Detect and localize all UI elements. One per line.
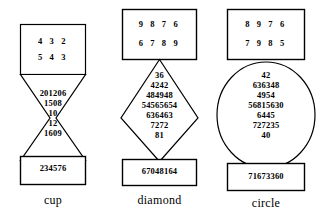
cup-input-row-0: 4 3 2 xyxy=(0,36,106,46)
circle-output-value: 71673360 xyxy=(213,171,319,181)
figure-cup: 4 3 2 5 4 3 201206 1508 10 12 1609 23457… xyxy=(0,0,106,222)
diamond-body-rows: 36 4242 484948 54565654 636463 7272 81 xyxy=(106,70,213,140)
diamond-output-value: 67048164 xyxy=(106,166,213,176)
cup-body-row-3: 12 xyxy=(0,118,106,128)
circle-body-rows: 42 636348 4954 56815630 6445 727235 40 xyxy=(213,70,319,140)
cup-body-row-1: 1508 xyxy=(0,98,106,108)
cup-body-rows: 201206 1508 10 12 1609 xyxy=(0,88,106,138)
circle-body-row-4: 6445 xyxy=(213,110,319,120)
diamond-body-row-5: 7272 xyxy=(106,120,213,130)
diamond-input-box xyxy=(123,10,197,60)
circle-body-row-3: 56815630 xyxy=(213,100,319,110)
cup-caption: cup xyxy=(0,193,106,208)
diamond-body-row-4: 636463 xyxy=(106,110,213,120)
figure-circle: 8 9 7 6 7 9 8 5 42 636348 4954 56815630 … xyxy=(213,0,319,222)
diamond-body-row-2: 484948 xyxy=(106,90,213,100)
circle-caption: circle xyxy=(213,196,319,211)
circle-input-row-0: 8 9 7 6 xyxy=(213,19,319,29)
circle-body-row-5: 727235 xyxy=(213,120,319,130)
cup-input-row-1: 5 4 3 xyxy=(0,52,106,62)
circle-input-box xyxy=(228,10,305,60)
diamond-body-row-3: 54565654 xyxy=(106,100,213,110)
diamond-input-row-0: 9 8 7 6 xyxy=(106,19,213,29)
circle-body-row-1: 636348 xyxy=(213,80,319,90)
cup-body-row-4: 1609 xyxy=(0,128,106,138)
figure-diamond: 9 8 7 6 6 7 8 9 36 4242 484948 54565654 … xyxy=(106,0,213,222)
cup-input-box xyxy=(21,25,86,75)
circle-body-row-6: 40 xyxy=(213,130,319,140)
diamond-body-row-1: 4242 xyxy=(106,80,213,90)
cup-body-row-0: 201206 xyxy=(0,88,106,98)
cup-body-row-2: 10 xyxy=(0,108,106,118)
cup-output-value: 234576 xyxy=(0,163,106,173)
circle-input-row-1: 7 9 8 5 xyxy=(213,38,319,48)
diamond-body-row-6: 81 xyxy=(106,130,213,140)
circle-body-row-0: 42 xyxy=(213,70,319,80)
diamond-body-row-0: 36 xyxy=(106,70,213,80)
diamond-caption: diamond xyxy=(106,193,213,208)
circle-body-row-2: 4954 xyxy=(213,90,319,100)
diamond-input-row-1: 6 7 8 9 xyxy=(106,38,213,48)
